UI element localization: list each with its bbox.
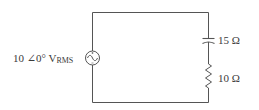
capacitor-label: 15 Ω (218, 35, 240, 46)
resistor-icon (206, 64, 212, 88)
source-magnitude: 10 (13, 52, 24, 64)
wires (93, 13, 209, 103)
ac-source-icon (86, 51, 100, 65)
resistor-label: 10 Ω (218, 73, 240, 84)
source-unit-subscript: RMS (56, 56, 73, 65)
source-label: 10 ∠0° VRMS (13, 53, 73, 64)
source-angle: ∠0° (27, 52, 46, 64)
